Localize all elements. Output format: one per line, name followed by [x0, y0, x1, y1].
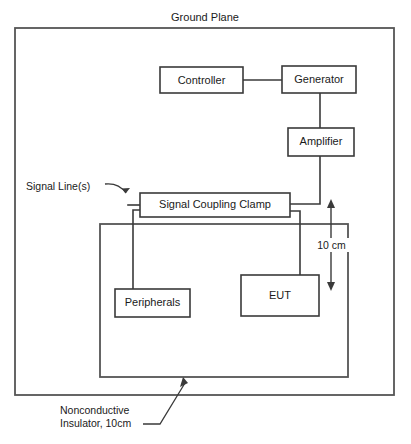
wire-amplifier-to-clamp	[290, 156, 320, 204]
peripherals-box: Peripherals	[115, 289, 190, 317]
insulator-leader	[143, 383, 185, 424]
insulator-label-line2: Insulator, 10cm	[60, 417, 131, 429]
eut-box: EUT	[241, 275, 319, 316]
ground-plane-title: Ground Plane	[171, 11, 239, 23]
signal-coupling-clamp-label: Signal Coupling Clamp	[159, 198, 271, 210]
wire-clamp-to-peripherals	[133, 210, 140, 289]
amplifier-box: Amplifier	[288, 128, 354, 156]
signal-lines-label: Signal Line(s)	[26, 180, 90, 192]
generator-box: Generator	[282, 66, 356, 93]
diagram-canvas: Ground Plane Controller Generator	[0, 0, 411, 444]
controller-label: Controller	[178, 74, 226, 86]
dimension-arrowhead-up-icon	[327, 199, 335, 208]
separation-label: 10 cm	[317, 239, 346, 251]
dimension-arrowhead-down-icon	[327, 282, 335, 291]
insulator-label-line1: Nonconductive	[60, 404, 130, 416]
eut-label: EUT	[269, 289, 291, 301]
insulator-annotation: Nonconductive Insulator, 10cm	[60, 377, 188, 429]
amplifier-label: Amplifier	[300, 135, 343, 147]
wire-clamp-to-eut	[290, 211, 300, 275]
signal-lines-annotation: Signal Line(s)	[26, 180, 130, 193]
signal-lines-leader	[105, 184, 126, 193]
peripherals-label: Peripherals	[125, 296, 181, 308]
arrow-down-right-icon	[122, 188, 131, 193]
controller-box: Controller	[160, 67, 243, 93]
emc-test-setup-diagram: Ground Plane Controller Generator	[0, 0, 411, 444]
signal-coupling-clamp-box: Signal Coupling Clamp	[140, 193, 290, 217]
generator-label: Generator	[294, 73, 344, 85]
